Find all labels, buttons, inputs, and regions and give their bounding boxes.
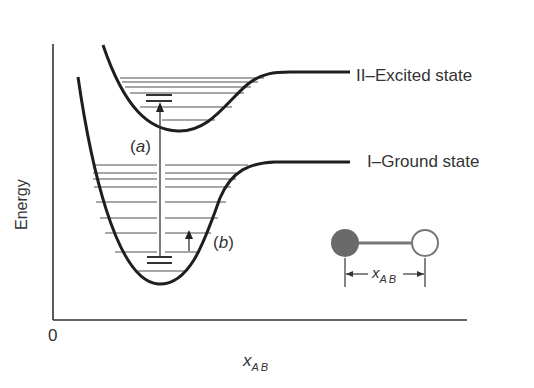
excited-lowest-level-marker	[146, 95, 172, 101]
transition-a-label: (a)	[130, 138, 151, 155]
excited-state-label: II–Excited state	[356, 67, 472, 84]
atom-a-icon	[331, 229, 359, 257]
x-axis-label: xAB	[243, 352, 270, 373]
transition-b-label: (b)	[213, 234, 234, 251]
ground-state-curve	[78, 77, 350, 284]
arrowhead-icon	[346, 271, 353, 277]
ground-state-label: I–Ground state	[367, 153, 479, 170]
inset-distance-label: xAB	[372, 265, 398, 285]
atom-b-icon	[412, 230, 438, 256]
arrowhead-icon	[417, 271, 424, 277]
excited-state-curve	[103, 45, 350, 131]
arrowhead-icon	[185, 230, 193, 239]
diagram-canvas	[0, 0, 534, 388]
energy-diagram: II–Excited state I–Ground state (a) (b) …	[0, 0, 534, 388]
y-axis-label: Energy	[14, 179, 30, 230]
origin-label: 0	[48, 327, 57, 344]
ground-state-levels	[93, 165, 248, 271]
ground-lowest-level-marker	[147, 257, 172, 263]
